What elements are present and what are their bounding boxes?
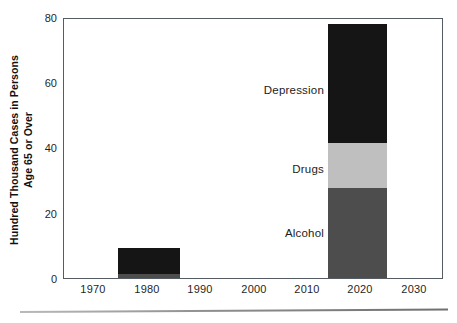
- x-tick-2010: 2010: [284, 283, 330, 295]
- y-tick-20: 20: [31, 208, 57, 220]
- x-tick-2030: 2030: [391, 283, 437, 295]
- x-tick-1980: 1980: [124, 283, 170, 295]
- bar-2020-drugs: [328, 143, 387, 189]
- x-tick-1970: 1970: [70, 283, 116, 295]
- x-tick-2020: 2020: [337, 283, 383, 295]
- y-tick-40: 40: [31, 142, 57, 154]
- plot-inner: Depression Drugs Alcohol: [64, 19, 442, 278]
- chart-figure: Hundred Thousand Cases in Persons Age 65…: [0, 0, 457, 323]
- x-tick-1990: 1990: [177, 283, 223, 295]
- y-tick-60: 60: [31, 77, 57, 89]
- series-label-depression: Depression: [264, 84, 324, 96]
- y-tick-0: 0: [31, 273, 57, 285]
- bottom-divider: [20, 309, 448, 313]
- x-tick-2000: 2000: [231, 283, 277, 295]
- bar-1980-alcohol: [118, 274, 180, 278]
- plot-area: Depression Drugs Alcohol: [63, 18, 443, 279]
- series-label-alcohol: Alcohol: [285, 227, 324, 239]
- bar-2020-alcohol: [328, 188, 387, 278]
- series-label-drugs: Drugs: [292, 163, 324, 175]
- bar-2020-depression: [328, 24, 387, 143]
- bar-1980-depression: [118, 248, 180, 274]
- y-tick-80: 80: [31, 12, 57, 24]
